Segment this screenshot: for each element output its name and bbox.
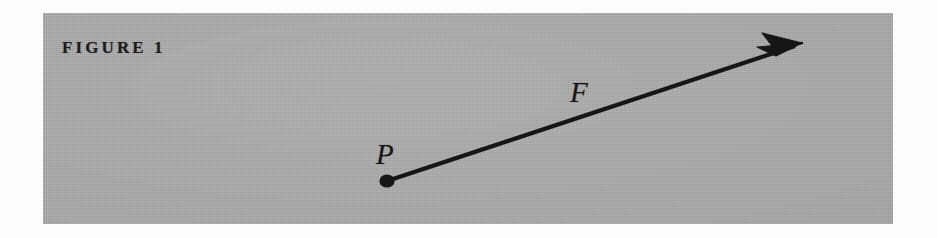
plate-shading-overlay [43, 13, 893, 224]
plate-grain-texture [43, 13, 893, 224]
figure-root: FIGURE 1 P F [0, 0, 937, 238]
figure-plate [43, 13, 893, 224]
point-p-label: P [376, 140, 394, 169]
force-vector-label: F [570, 78, 588, 107]
figure-caption: FIGURE 1 [62, 38, 166, 58]
